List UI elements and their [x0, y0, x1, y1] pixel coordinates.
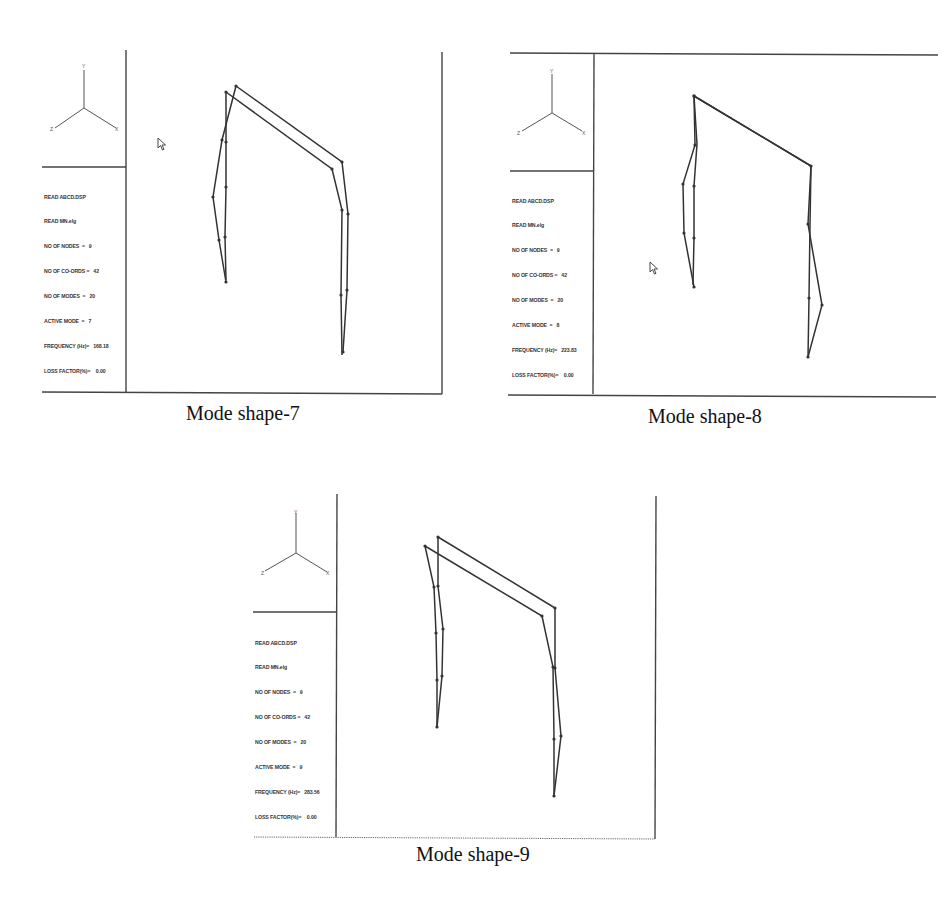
axis-triad-icon: [265, 513, 327, 572]
mode-shape-9-panel: Y Z X READ ABCD.DSP READ MN.elg NO OF NO…: [0, 0, 948, 909]
info-line: READ ABCD.DSP: [255, 639, 320, 647]
mode-shape-9-caption: Mode shape-9: [416, 843, 530, 866]
info-line-active-mode: ACTIVE MODE = 9: [255, 763, 320, 771]
structure-nodes: [423, 535, 562, 797]
axis-z-label: Z: [261, 570, 264, 576]
info-line-frequency: FREQUENCY (Hz)= 283.56: [255, 788, 320, 796]
info-line: NO OF NODES = 9: [255, 688, 320, 696]
model-info-block: READ ABCD.DSP READ MN.elg NO OF NODES = …: [255, 622, 320, 838]
info-line: NO OF MODES = 20: [255, 738, 320, 746]
info-line-loss-factor: LOSS FACTOR(%)= 0.00: [255, 813, 320, 821]
info-line: NO OF CO-ORDS = 42: [255, 713, 320, 721]
axis-y-label: Y: [294, 509, 298, 515]
info-line: READ MN.elg: [255, 663, 320, 671]
mode-shape-9-plot: Y Z X: [0, 0, 948, 909]
axis-x-label: X: [326, 570, 330, 576]
structure-wireframe: [425, 537, 561, 796]
